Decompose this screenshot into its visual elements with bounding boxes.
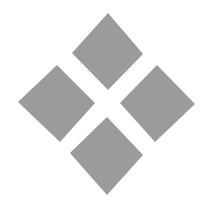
four-diamond-symbol <box>0 0 218 211</box>
diamond-left <box>18 65 95 142</box>
diamond-right <box>120 65 195 142</box>
diamond-top <box>72 13 143 90</box>
diamond-bottom <box>70 117 143 195</box>
